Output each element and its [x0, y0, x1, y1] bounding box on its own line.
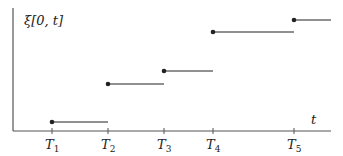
tick-label-2: T2	[101, 137, 115, 154]
tick-label-3: T3	[157, 137, 172, 154]
closed-endpoint-dot	[50, 120, 55, 125]
closed-endpoint-dot	[292, 18, 297, 23]
step-segments	[50, 18, 331, 125]
tick-label-4: T4	[206, 137, 221, 154]
closed-endpoint-dot	[162, 69, 167, 74]
closed-endpoint-dot	[211, 30, 216, 35]
x-axis-label: t	[311, 112, 317, 127]
tick-label-5: T5	[287, 137, 302, 154]
y-axis-label: ξ[0, t]	[24, 13, 64, 28]
x-axis-ticks: T1T2T3T4T5	[45, 128, 302, 154]
tick-label-1: T1	[45, 137, 59, 154]
closed-endpoint-dot	[106, 82, 111, 87]
step-function-diagram: T1T2T3T4T5 ξ[0, t] t	[0, 0, 343, 156]
